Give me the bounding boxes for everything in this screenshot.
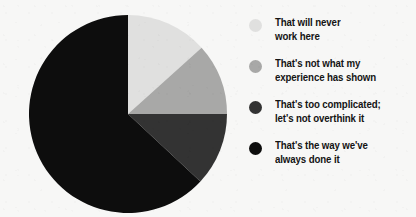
legend-item-always-done-it[interactable]: That's the way we've always done it [249, 139, 411, 166]
legend-swatch-too-complicated [249, 101, 262, 114]
pie-chart-root: That will never work here That's not wha… [0, 0, 416, 217]
pie-slice-group [29, 15, 227, 213]
legend-swatch-always-done-it [249, 142, 262, 155]
legend-swatch-never-work-here [249, 19, 262, 32]
legend-label-never-work-here: That will never work here [275, 16, 341, 43]
legend-swatch-not-my-experience [249, 60, 262, 73]
legend-item-not-my-experience[interactable]: That's not what my experience has shown [249, 57, 411, 84]
pie-chart [29, 15, 227, 213]
legend-item-too-complicated[interactable]: That's too complicated; let's not overth… [249, 98, 411, 125]
legend-label-too-complicated: That's too complicated; let's not overth… [275, 98, 381, 125]
legend-label-not-my-experience: That's not what my experience has shown [275, 57, 376, 84]
pie-chart-svg [29, 15, 227, 213]
chart-legend: That will never work here That's not wha… [249, 16, 411, 167]
legend-item-never-work-here[interactable]: That will never work here [249, 16, 411, 43]
legend-label-always-done-it: That's the way we've always done it [275, 139, 368, 166]
